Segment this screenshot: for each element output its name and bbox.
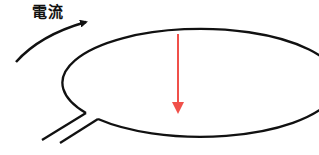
loop-diagram xyxy=(0,0,319,155)
wire-loop xyxy=(62,29,319,137)
field-arrow xyxy=(172,34,184,114)
lead-wires xyxy=(42,113,98,143)
current-direction-arrow xyxy=(16,22,86,62)
